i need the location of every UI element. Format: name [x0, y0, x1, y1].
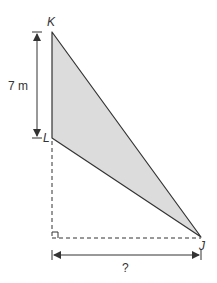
- triangle-klj: [52, 32, 201, 237]
- label-k: K: [47, 15, 56, 29]
- label-j: J: [198, 239, 206, 253]
- label-kl-length: 7 m: [8, 79, 28, 93]
- diagram-svg: K L J 7 m ?: [0, 0, 217, 283]
- right-angle-marker: [52, 232, 58, 238]
- geometry-diagram: K L J 7 m ?: [0, 0, 217, 283]
- label-horizontal-distance: ?: [122, 261, 129, 275]
- label-l: L: [43, 131, 50, 145]
